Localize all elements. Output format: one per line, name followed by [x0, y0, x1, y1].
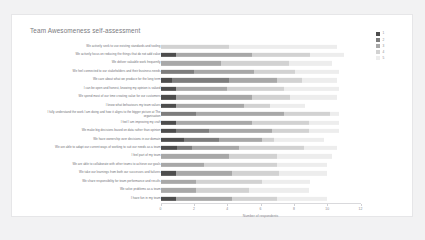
bar-segment-5[interactable]	[277, 163, 327, 167]
bar-segment-5[interactable]	[279, 171, 327, 175]
bar-segment-4[interactable]	[227, 87, 284, 91]
bar-segment-1[interactable]	[161, 53, 176, 57]
bar-segment-3[interactable]	[176, 171, 233, 175]
bar-segment-5[interactable]	[302, 78, 337, 82]
bar-segment-4[interactable]	[262, 137, 274, 141]
stacked-bar[interactable]	[161, 78, 338, 82]
bar-segment-1[interactable]	[161, 146, 178, 150]
legend-swatch-icon	[376, 56, 380, 60]
stacked-bar[interactable]	[161, 95, 338, 99]
legend-label: 1	[383, 32, 385, 35]
legend-item[interactable]: 5	[376, 55, 384, 61]
bar-segment-4[interactable]	[277, 78, 302, 82]
stacked-bar[interactable]	[161, 44, 338, 48]
stacked-bar[interactable]	[161, 197, 328, 201]
bar-segment-3[interactable]	[176, 95, 253, 99]
bar-segment-5[interactable]	[284, 87, 339, 91]
bar-segment-3[interactable]	[229, 78, 277, 82]
bar-segment-3[interactable]	[176, 120, 253, 124]
bar-segment-2[interactable]	[161, 112, 196, 116]
stacked-bar[interactable]	[161, 87, 339, 91]
bar-segment-3[interactable]	[176, 53, 253, 57]
bar-segment-3[interactable]	[192, 146, 239, 150]
bar-segment-3[interactable]	[219, 137, 262, 141]
bar-segment-3[interactable]	[176, 87, 228, 91]
bar-segment-5[interactable]	[295, 70, 338, 74]
stacked-bar[interactable]	[161, 146, 338, 150]
bar-segment-4[interactable]	[204, 163, 277, 167]
bar-segment-1[interactable]	[161, 129, 176, 133]
bar-segment-1[interactable]	[161, 104, 176, 108]
bar-segment-5[interactable]	[277, 197, 327, 201]
bar-segment-1[interactable]	[161, 171, 176, 175]
bar-segment-3[interactable]	[176, 197, 233, 201]
bar-segment-3[interactable]	[161, 154, 229, 158]
bar-segment-1[interactable]	[161, 95, 176, 99]
bar-segment-3[interactable]	[161, 163, 204, 167]
bar-segment-5[interactable]	[274, 137, 324, 141]
bar-segment-4[interactable]	[244, 104, 271, 108]
bar-segment-5[interactable]	[277, 154, 332, 158]
y-axis-category-label: We deliver valuable work frequently	[35, 62, 161, 66]
x-axis-tick-label: 2	[193, 207, 195, 211]
bar-segment-5[interactable]	[249, 188, 309, 192]
bar-segment-1[interactable]	[161, 87, 176, 91]
bar-segment-5[interactable]	[304, 146, 337, 150]
bar-segment-4[interactable]	[232, 197, 277, 201]
bar-segment-1[interactable]	[161, 78, 173, 82]
bar-segment-4[interactable]	[252, 95, 290, 99]
bar-segment-2[interactable]	[176, 129, 209, 133]
bar-row: We deliver valuable work frequently	[12, 59, 414, 67]
bar-segment-4[interactable]	[229, 154, 277, 158]
stacked-bar[interactable]	[161, 137, 324, 141]
bar-segment-3[interactable]	[196, 112, 284, 116]
stacked-bar[interactable]	[161, 120, 339, 124]
bar-segment-2[interactable]	[184, 137, 219, 141]
y-axis-category-label: I feel part of my team	[35, 155, 161, 159]
stacked-bar[interactable]	[161, 70, 339, 74]
bar-segment-4[interactable]	[232, 171, 279, 175]
bar-segment-4[interactable]	[161, 44, 229, 48]
stacked-bar[interactable]	[161, 188, 309, 192]
bar-segment-4[interactable]	[252, 120, 309, 124]
bar-segment-4[interactable]	[272, 129, 309, 133]
bar-segment-5[interactable]	[309, 120, 339, 124]
stacked-bar[interactable]	[161, 171, 328, 175]
stacked-bar[interactable]	[161, 180, 311, 184]
y-axis-category-label: We make big decisions based on data rath…	[35, 129, 161, 133]
bar-segment-3[interactable]	[194, 70, 254, 74]
bar-segment-5[interactable]	[289, 61, 332, 65]
stacked-bar[interactable]	[161, 61, 333, 65]
bar-segment-3[interactable]	[209, 129, 272, 133]
bar-segment-2[interactable]	[177, 146, 192, 150]
bar-segment-1[interactable]	[161, 197, 176, 201]
bar-segment-4[interactable]	[196, 188, 249, 192]
bar-segment-4[interactable]	[196, 180, 263, 184]
bar-segment-2[interactable]	[161, 70, 194, 74]
bar-segment-5[interactable]	[270, 104, 305, 108]
bar-segment-3[interactable]	[176, 104, 244, 108]
bar-segment-3[interactable]	[161, 188, 196, 192]
bar-segment-1[interactable]	[161, 120, 176, 124]
bar-segment-3[interactable]	[161, 180, 196, 184]
bar-segment-5[interactable]	[310, 53, 343, 57]
bar-segment-4[interactable]	[252, 53, 310, 57]
bar-segment-5[interactable]	[229, 44, 337, 48]
bar-segment-4[interactable]	[254, 70, 296, 74]
bar-segment-1[interactable]	[161, 137, 184, 141]
stacked-bar[interactable]	[161, 104, 306, 108]
bar-segment-4[interactable]	[221, 61, 289, 65]
stacked-bar[interactable]	[161, 112, 339, 116]
bar-segment-4[interactable]	[284, 112, 331, 116]
bar-segment-3[interactable]	[161, 61, 221, 65]
bar-segment-5[interactable]	[290, 95, 337, 99]
stacked-bar[interactable]	[161, 154, 333, 158]
bar-segment-5[interactable]	[309, 129, 339, 133]
bar-segment-5[interactable]	[330, 112, 338, 116]
stacked-bar[interactable]	[161, 163, 328, 167]
stacked-bar[interactable]	[161, 129, 339, 133]
bar-segment-5[interactable]	[262, 180, 310, 184]
stacked-bar[interactable]	[161, 53, 344, 57]
bar-segment-4[interactable]	[239, 146, 304, 150]
bar-segment-2[interactable]	[172, 78, 229, 82]
